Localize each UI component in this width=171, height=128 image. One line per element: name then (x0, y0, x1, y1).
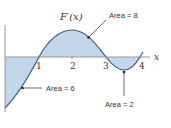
area-8-arrowhead-icon (87, 36, 90, 39)
area-diagram: 1 2 3 4 x F′(x) Area = 8 Area = 6 Area =… (0, 0, 171, 128)
area-2-arrowhead-icon (123, 71, 126, 74)
area-8-label: Area = 8 (109, 11, 138, 20)
tick-label-4: 4 (139, 61, 145, 71)
function-label: F′(x) (59, 11, 83, 22)
tick-label-2: 2 (70, 61, 76, 71)
tick-label-1: 1 (36, 61, 42, 71)
area-2-label: Area = 2 (105, 100, 134, 109)
x-axis-label: x (154, 52, 159, 62)
area-8-arrow (89, 20, 106, 37)
area-6-label: Area = 6 (46, 84, 75, 93)
tick-label-3: 3 (103, 61, 109, 71)
area-6-arrowhead-icon (21, 87, 24, 90)
